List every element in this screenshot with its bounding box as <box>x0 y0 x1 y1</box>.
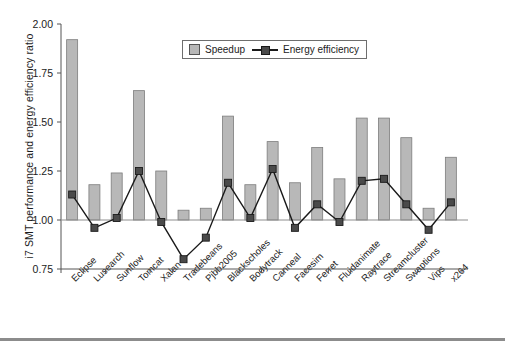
line-marker-swatch-icon <box>252 45 278 54</box>
energy-efficiency-marker <box>202 234 209 241</box>
legend-label-energy-efficiency: Energy efficiency <box>283 44 359 55</box>
speedup-bar <box>379 118 390 220</box>
chart-legend: Speedup Energy efficiency <box>182 40 367 59</box>
legend-label-speedup: Speedup <box>205 44 245 55</box>
energy-efficiency-marker <box>314 201 321 208</box>
energy-efficiency-marker <box>158 218 165 225</box>
speedup-bar <box>289 183 300 220</box>
speedup-bar <box>223 116 234 220</box>
energy-efficiency-marker <box>247 215 254 222</box>
energy-efficiency-marker <box>180 256 187 263</box>
energy-efficiency-marker <box>447 199 454 206</box>
energy-efficiency-marker <box>358 177 365 184</box>
footer-divider <box>0 338 505 341</box>
speedup-bar <box>200 208 211 220</box>
speedup-bar <box>111 173 122 220</box>
energy-efficiency-marker <box>403 201 410 208</box>
speedup-bar <box>178 210 189 220</box>
legend-entry-energy-efficiency: Energy efficiency <box>252 44 359 55</box>
energy-efficiency-marker <box>113 215 120 222</box>
energy-efficiency-marker <box>69 191 76 198</box>
speedup-bar <box>445 157 456 220</box>
energy-efficiency-marker <box>425 226 432 233</box>
energy-efficiency-marker <box>225 179 232 186</box>
energy-efficiency-marker <box>135 168 142 175</box>
energy-efficiency-marker <box>381 175 388 182</box>
legend-entry-speedup: Speedup <box>189 44 245 55</box>
speedup-bar <box>423 208 434 220</box>
energy-efficiency-marker <box>91 224 98 231</box>
bar-swatch-icon <box>189 44 200 55</box>
energy-efficiency-marker <box>336 218 343 225</box>
energy-efficiency-marker <box>291 224 298 231</box>
chart-figure: i7 SMT performance and energy efficiency… <box>0 0 505 360</box>
speedup-bar <box>133 91 144 220</box>
energy-efficiency-line <box>72 169 451 259</box>
speedup-bar <box>89 185 100 220</box>
speedup-bar <box>356 118 367 220</box>
energy-efficiency-marker <box>269 166 276 173</box>
